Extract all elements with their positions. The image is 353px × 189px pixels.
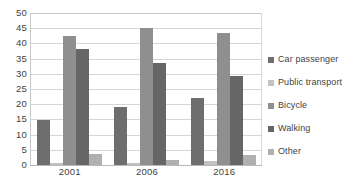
- x-axis-tick-label: 2006: [108, 167, 185, 177]
- legend-item-label: Car passenger: [278, 55, 338, 64]
- y-axis-tick-label: 20: [16, 99, 27, 109]
- legend-swatch-icon: [268, 103, 274, 109]
- plot-area: [30, 13, 262, 165]
- legend-item[interactable]: Car passenger: [268, 48, 353, 71]
- bar[interactable]: [114, 107, 127, 165]
- bar-slot: [140, 13, 153, 165]
- bar-slot: [114, 13, 127, 165]
- y-axis-tick-label: 30: [16, 69, 27, 79]
- chart-legend: Car passengerPublic transportBicycleWalk…: [268, 48, 353, 163]
- bar-slot: [243, 13, 256, 165]
- bar-slot: [191, 13, 204, 165]
- bar-chart: 50454035302520151050 200120062016 Car pa…: [0, 0, 353, 189]
- bar[interactable]: [140, 28, 153, 165]
- legend-swatch-icon: [268, 80, 274, 86]
- x-axis: 200120062016: [31, 167, 263, 177]
- bar[interactable]: [217, 33, 230, 165]
- legend-item-label: Bicycle: [278, 101, 307, 110]
- bar-slot: [89, 13, 102, 165]
- y-axis-tick-label: 45: [16, 23, 27, 33]
- bar-group: [31, 13, 108, 165]
- legend-swatch-icon: [268, 126, 274, 132]
- bar-slot: [166, 13, 179, 165]
- bar-group: [108, 13, 185, 165]
- bar-slot: [63, 13, 76, 165]
- legend-item[interactable]: Walking: [268, 117, 353, 140]
- bar-slot: [217, 13, 230, 165]
- bar-slot: [127, 13, 140, 165]
- y-axis-tick-label: 0: [22, 160, 27, 170]
- bar-slot: [230, 13, 243, 165]
- bar[interactable]: [243, 155, 256, 165]
- legend-item[interactable]: Other: [268, 140, 353, 163]
- bar[interactable]: [153, 63, 166, 165]
- legend-item-label: Walking: [278, 124, 310, 133]
- y-axis-tick-label: 5: [22, 145, 27, 155]
- bar-slot: [153, 13, 166, 165]
- bar-groups: [31, 13, 262, 165]
- bar-slot: [204, 13, 217, 165]
- y-axis-tick-label: 15: [16, 115, 27, 125]
- bar[interactable]: [76, 49, 89, 165]
- legend-swatch-icon: [268, 149, 274, 155]
- y-axis-tick-label: 35: [16, 54, 27, 64]
- legend-item-label: Other: [278, 147, 301, 156]
- y-axis-tick-label: 25: [16, 84, 27, 94]
- bar-slot: [50, 13, 63, 165]
- legend-item-label: Public transport: [278, 78, 342, 87]
- y-axis: 50454035302520151050: [0, 13, 27, 165]
- bar[interactable]: [37, 120, 50, 165]
- bar[interactable]: [89, 154, 102, 165]
- y-axis-tick-label: 10: [16, 130, 27, 140]
- bar-slot: [37, 13, 50, 165]
- y-axis-tick-label: 40: [16, 39, 27, 49]
- x-axis-tick-label: 2016: [186, 167, 263, 177]
- bar[interactable]: [204, 161, 217, 165]
- x-axis-tick-label: 2001: [31, 167, 108, 177]
- y-axis-tick-label: 50: [16, 8, 27, 18]
- legend-swatch-icon: [268, 57, 274, 63]
- bar[interactable]: [127, 163, 140, 165]
- legend-item[interactable]: Public transport: [268, 71, 353, 94]
- bar[interactable]: [50, 163, 63, 165]
- bar[interactable]: [166, 160, 179, 165]
- bar[interactable]: [191, 98, 204, 165]
- bar[interactable]: [230, 76, 243, 165]
- bar-slot: [76, 13, 89, 165]
- bar-group: [185, 13, 262, 165]
- bar[interactable]: [63, 36, 76, 165]
- legend-item[interactable]: Bicycle: [268, 94, 353, 117]
